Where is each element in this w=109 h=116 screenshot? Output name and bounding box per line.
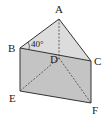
angle-label: 40° [31,39,44,49]
label-a: A [55,3,63,15]
label-e: E [9,92,16,104]
prism-diagram: A B C D E F 40° [0,0,109,116]
label-c: C [94,55,101,67]
label-f: F [92,104,98,116]
label-b: B [8,42,15,54]
label-d: D [50,53,58,65]
